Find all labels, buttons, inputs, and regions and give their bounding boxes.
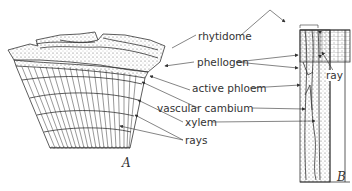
panel-b-section [300, 25, 350, 182]
label-rhytidome: rhytidome [198, 31, 252, 42]
panel-b-letter: B [337, 170, 346, 184]
label-rays: rays [185, 135, 207, 146]
label-phellogen: phellogen [197, 57, 249, 68]
panel-a-letter: A [122, 156, 131, 170]
label-ray: ray [326, 70, 343, 81]
label-active-phloem: active phloem [192, 83, 267, 94]
label-xylem: xylem [185, 117, 217, 128]
bark-diagram [0, 0, 352, 191]
label-vascular-cambium: vascular cambium [157, 103, 253, 114]
